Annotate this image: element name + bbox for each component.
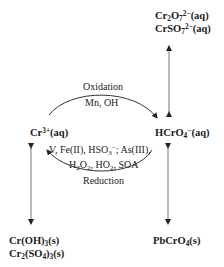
reduction-label: Reduction [83,176,124,186]
subscript: 2 [87,164,91,172]
node-pbcro4: PbCrO4(s) [153,236,200,247]
node-hcro4: HCrO4−(aq) [155,128,210,139]
subscript: 2 [167,14,171,23]
text: (s) [53,248,64,259]
oxidation-agents: Mn, OH [85,98,118,108]
reduction-agents-line2: H2O2, HO2, SOA [69,160,138,170]
text: (s) [48,235,59,246]
subscript: 4 [186,239,190,248]
superscript: 2− [185,22,193,31]
oxidation-label: Oxidation [83,82,123,92]
text: (aq) [191,127,209,138]
text: (aq) [193,23,211,34]
text: Cr(OH) [9,235,45,246]
node-cr2so43: Cr2(SO4)3(s) [9,249,64,260]
superscript: − [187,126,191,135]
text: Cr [30,127,42,138]
subscript: 4 [42,252,46,261]
text: (s) [189,235,200,246]
reduction-agents-line1: V, Fe(II), HSO3−; As(III), [49,145,151,155]
text: O [80,159,87,170]
text: , SOA [113,159,138,170]
text: O [171,10,179,21]
subscript: 3 [50,252,54,261]
subscript: 2 [76,164,80,172]
text: PbCrO [153,235,186,246]
text: V, Fe(II), HSO [49,144,108,155]
text: Cr [155,10,167,21]
node-chromosulfate: CrSO72−(aq) [155,24,211,35]
text: (SO [25,248,43,259]
superscript: 2− [183,9,191,18]
subscript: 2 [110,164,114,172]
text: CrSO [155,23,181,34]
node-cr3: Cr3+(aq) [30,128,68,139]
subscript: 3 [45,239,49,248]
text: ; As(III), [116,144,151,155]
superscript: 3+ [42,126,50,135]
node-dichromate: Cr2O72−(aq) [155,11,209,22]
text: (aq) [191,10,209,21]
node-croh3: Cr(OH)3(s) [9,236,59,247]
superscript: − [112,144,116,152]
text: (aq) [50,127,68,138]
text: HCrO [155,127,184,138]
text: , HO [90,159,109,170]
text: Cr [9,248,21,259]
subscript: 2 [21,252,25,261]
